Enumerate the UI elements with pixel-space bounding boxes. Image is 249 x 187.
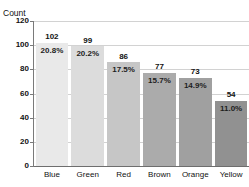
bar-series: 10220.8%9920.2%8617.5%7715.7%7314.9%5411… (34, 21, 249, 166)
y-axis-tick-label: 0 (0, 161, 29, 170)
bar-percent-label: 14.9% (179, 81, 212, 90)
bar-count-label: 102 (36, 32, 69, 41)
x-axis-category-label: Blue (36, 170, 69, 179)
bar-count-label: 54 (215, 90, 248, 99)
bar-percent-label: 15.7% (143, 76, 176, 85)
bar[interactable] (107, 62, 140, 166)
y-axis-tick-label: 60 (0, 89, 29, 98)
x-axis-category-label: Orange (179, 170, 212, 179)
x-axis-category-label: Brown (143, 170, 176, 179)
x-axis-category-label: Green (71, 170, 104, 179)
bar-group[interactable]: 7715.7% (143, 21, 176, 166)
x-axis-category-labels: BlueGreenRedBrownOrangeYellow (34, 170, 249, 184)
x-axis-category-label: Red (107, 170, 140, 179)
bar-group[interactable]: 8617.5% (107, 21, 140, 166)
bar-group[interactable]: 9920.2% (71, 21, 104, 166)
bar-group[interactable]: 5411.0% (215, 21, 248, 166)
bar-percent-label: 20.8% (36, 46, 69, 55)
y-axis-tick-label: 20 (0, 137, 29, 146)
bar-percent-label: 17.5% (107, 65, 140, 74)
y-axis-tick-label: 80 (0, 64, 29, 73)
bar-count-label: 99 (71, 36, 104, 45)
bar-group[interactable]: 10220.8% (36, 21, 69, 166)
bar-count-label: 86 (107, 52, 140, 61)
bar-count-label: 77 (143, 62, 176, 71)
x-axis-category-label: Yellow (215, 170, 248, 179)
bar[interactable] (36, 43, 69, 166)
y-axis-tick-label: 120 (0, 16, 29, 25)
bar[interactable] (71, 46, 104, 166)
bar-chart: Count 120100806040200 10220.8%9920.2%861… (0, 0, 249, 187)
y-axis-tick-label: 40 (0, 113, 29, 122)
bar[interactable] (143, 73, 176, 166)
bar[interactable] (179, 78, 212, 166)
bar-count-label: 73 (179, 67, 212, 76)
bar-group[interactable]: 7314.9% (179, 21, 212, 166)
bar-percent-label: 11.0% (215, 104, 248, 113)
y-axis-tick-label: 100 (0, 40, 29, 49)
y-axis-tick-mark (30, 166, 34, 167)
bar-percent-label: 20.2% (71, 49, 104, 58)
